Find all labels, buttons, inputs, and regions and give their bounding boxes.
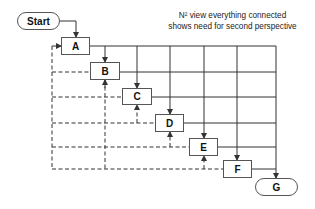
node-a: A bbox=[61, 37, 90, 55]
node-e: E bbox=[189, 138, 218, 156]
caption-line-1: N² view everything connected bbox=[150, 11, 315, 22]
node-b: B bbox=[90, 62, 120, 80]
start-node: Start bbox=[17, 12, 60, 30]
node-d: D bbox=[155, 114, 184, 132]
end-node-g: G bbox=[255, 178, 298, 196]
node-c: C bbox=[122, 88, 152, 105]
node-f: F bbox=[223, 160, 252, 178]
caption-line-2: shows need for second perspective bbox=[150, 22, 315, 33]
diagram-caption: N² view everything connected shows need … bbox=[150, 11, 315, 32]
start-to-a-connector bbox=[60, 21, 76, 37]
